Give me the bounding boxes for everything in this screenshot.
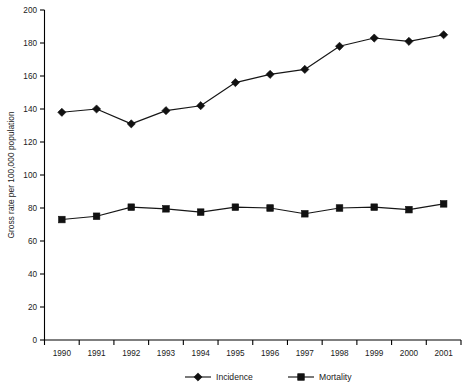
y-tick-label: 200 bbox=[23, 6, 37, 15]
x-tick-label: 1991 bbox=[87, 349, 106, 358]
data-point-incidence-1991 bbox=[92, 105, 100, 113]
series-mortality bbox=[59, 201, 447, 223]
data-point-mortality-1997 bbox=[302, 210, 309, 217]
series-line-mortality bbox=[62, 204, 444, 220]
y-axis: 020406080100120140160180200 bbox=[23, 6, 44, 345]
data-point-incidence-2001 bbox=[440, 31, 448, 39]
x-tick-label: 1999 bbox=[365, 349, 384, 358]
data-point-incidence-2000 bbox=[405, 37, 413, 45]
y-tick-label: 180 bbox=[23, 39, 37, 48]
x-tick-label: 1992 bbox=[122, 349, 141, 358]
y-tick-label: 80 bbox=[28, 204, 38, 213]
legend-item-incidence: Incidence bbox=[185, 372, 253, 382]
y-tick-label: 140 bbox=[23, 105, 37, 114]
data-point-incidence-1999 bbox=[370, 34, 378, 42]
data-point-mortality-1991 bbox=[93, 213, 100, 220]
data-point-incidence-1992 bbox=[127, 120, 135, 128]
x-tick-label: 1996 bbox=[261, 349, 280, 358]
data-point-mortality-1994 bbox=[197, 209, 204, 216]
x-tick-label: 1990 bbox=[53, 349, 72, 358]
data-point-mortality-1990 bbox=[59, 216, 66, 223]
x-axis: 1990199119921993199419951996199719981999… bbox=[45, 340, 462, 358]
y-tick-label: 0 bbox=[32, 336, 37, 345]
chart-canvas: 020406080100120140160180200 199019911992… bbox=[0, 0, 469, 392]
series-layer bbox=[58, 31, 448, 223]
x-tick-label: 1995 bbox=[226, 349, 245, 358]
data-point-mortality-1992 bbox=[128, 204, 135, 211]
x-tick-label: 1998 bbox=[330, 349, 349, 358]
legend-label-mortality: Mortality bbox=[319, 372, 352, 382]
y-tick-label: 160 bbox=[23, 72, 37, 81]
data-point-mortality-1999 bbox=[371, 204, 378, 211]
legend-marker-incidence bbox=[194, 373, 202, 381]
data-point-mortality-1995 bbox=[232, 204, 239, 211]
data-point-incidence-1993 bbox=[162, 107, 170, 115]
data-point-mortality-2001 bbox=[440, 201, 447, 208]
y-tick-label: 40 bbox=[28, 270, 38, 279]
series-incidence bbox=[58, 31, 448, 128]
data-point-mortality-2000 bbox=[406, 206, 413, 213]
x-tick-label: 1994 bbox=[192, 349, 211, 358]
legend-label-incidence: Incidence bbox=[216, 372, 253, 382]
line-chart: 020406080100120140160180200 199019911992… bbox=[0, 0, 469, 392]
data-point-mortality-1998 bbox=[336, 205, 343, 212]
data-point-incidence-1994 bbox=[197, 102, 205, 110]
y-tick-label: 100 bbox=[23, 171, 37, 180]
y-tick-label: 120 bbox=[23, 138, 37, 147]
data-point-incidence-1995 bbox=[231, 79, 239, 87]
chart-legend: IncidenceMortality bbox=[185, 372, 352, 382]
y-tick-label: 20 bbox=[28, 303, 38, 312]
x-tick-label: 1997 bbox=[296, 349, 315, 358]
data-point-incidence-1997 bbox=[301, 65, 309, 73]
data-point-incidence-1996 bbox=[266, 70, 274, 78]
x-tick-label: 2001 bbox=[435, 349, 454, 358]
data-point-mortality-1993 bbox=[163, 206, 170, 213]
series-line-incidence bbox=[62, 35, 444, 124]
x-tick-label: 1993 bbox=[157, 349, 176, 358]
data-point-incidence-1998 bbox=[335, 42, 343, 50]
data-point-incidence-1990 bbox=[58, 108, 66, 116]
y-tick-label: 60 bbox=[28, 237, 38, 246]
legend-item-mortality: Mortality bbox=[288, 372, 352, 382]
x-tick-label: 2000 bbox=[400, 349, 419, 358]
y-axis-title: Gross rate per 100,000 population bbox=[6, 111, 16, 238]
legend-marker-mortality bbox=[298, 374, 305, 381]
data-point-mortality-1996 bbox=[267, 205, 274, 212]
